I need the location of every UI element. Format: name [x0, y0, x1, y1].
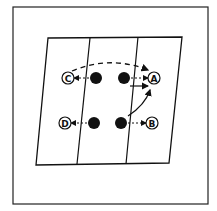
court-divider-right [126, 37, 138, 164]
dashed-arc-arrow [72, 63, 148, 71]
svg-text:A: A [151, 74, 158, 84]
player-dot [118, 72, 130, 84]
svg-text:C: C [65, 74, 72, 84]
position-b: B [146, 117, 158, 129]
svg-text:D: D [61, 119, 68, 129]
position-c: C [62, 72, 74, 84]
player-dot [88, 117, 100, 129]
svg-text:B: B [149, 119, 156, 129]
court-outline [36, 37, 182, 165]
diagram-canvas: C A D B [0, 0, 217, 211]
position-d: D [59, 117, 71, 129]
player-dot [115, 117, 127, 129]
court-divider-left [77, 38, 90, 164]
player-dot [90, 72, 102, 84]
position-a: A [148, 72, 160, 84]
